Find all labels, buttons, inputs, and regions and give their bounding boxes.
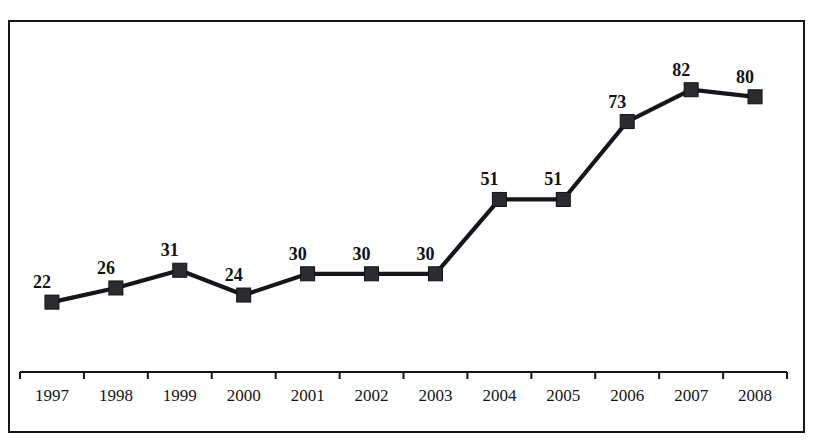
- data-point-value-label: 26: [97, 259, 115, 277]
- x-axis-category-label: 1998: [99, 387, 133, 404]
- data-point-marker[interactable]: [748, 90, 762, 104]
- data-point-value-label: 22: [33, 273, 51, 291]
- data-point-marker[interactable]: [237, 288, 251, 302]
- x-axis-category-label: 1997: [35, 387, 69, 404]
- x-axis-category-label: 2001: [291, 387, 325, 404]
- x-axis-category-label: 2008: [738, 387, 772, 404]
- x-axis-category-label: 2007: [674, 387, 708, 404]
- chart-plot-area: 222631243030305151738280 199719981999200…: [10, 22, 803, 431]
- data-point-value-label: 82: [672, 61, 690, 79]
- data-point-value-label: 51: [480, 170, 498, 188]
- x-axis-category-label: 2000: [227, 387, 261, 404]
- data-point-marker[interactable]: [428, 267, 442, 281]
- data-point-marker[interactable]: [365, 267, 379, 281]
- x-axis-category-label: 2004: [482, 387, 516, 404]
- data-point-marker[interactable]: [556, 192, 570, 206]
- x-axis-category-label: 2003: [418, 387, 452, 404]
- data-point-marker[interactable]: [684, 83, 698, 97]
- x-axis-group: [20, 372, 787, 379]
- data-point-marker[interactable]: [109, 281, 123, 295]
- data-point-marker[interactable]: [620, 115, 634, 129]
- series-line-path: [52, 90, 755, 302]
- data-point-value-label: 31: [161, 241, 179, 259]
- chart-page: 222631243030305151738280 199719981999200…: [0, 0, 814, 445]
- data-point-marker[interactable]: [45, 295, 59, 309]
- data-point-value-label: 30: [353, 245, 371, 263]
- data-point-value-label: 30: [289, 245, 307, 263]
- x-axis-category-label: 2006: [610, 387, 644, 404]
- line-chart-graphic: [10, 22, 803, 431]
- x-axis-category-label: 2005: [546, 387, 580, 404]
- data-point-value-label: 24: [225, 266, 243, 284]
- data-point-marker[interactable]: [173, 263, 187, 277]
- chart-frame-border: 222631243030305151738280 199719981999200…: [8, 20, 805, 433]
- data-point-value-label: 51: [544, 170, 562, 188]
- x-axis-category-label: 1999: [163, 387, 197, 404]
- data-point-marker[interactable]: [492, 192, 506, 206]
- data-point-marker[interactable]: [301, 267, 315, 281]
- data-point-value-label: 73: [608, 93, 626, 111]
- cropped-chart-title: [0, 0, 814, 14]
- data-point-value-label: 80: [736, 68, 754, 86]
- data-point-value-label: 30: [416, 245, 434, 263]
- x-axis-category-label: 2002: [355, 387, 389, 404]
